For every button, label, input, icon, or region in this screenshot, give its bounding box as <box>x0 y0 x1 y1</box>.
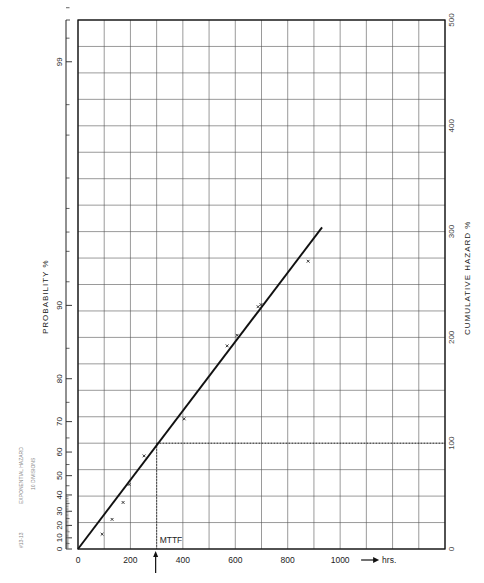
x-tick-label: 400 <box>176 555 190 565</box>
x-tick-label: 200 <box>123 555 137 565</box>
x-tick-label: 600 <box>228 555 242 565</box>
data-point-x-marker <box>236 334 239 337</box>
probability-tick-label: 70 <box>55 417 64 426</box>
x-tick-label: 800 <box>281 555 295 565</box>
data-point-x-marker <box>257 305 260 308</box>
data-point-x-marker <box>183 417 186 420</box>
data-point-x-marker <box>143 454 146 457</box>
probability-tick-label: 90 <box>55 300 64 309</box>
data-point-x-marker <box>101 533 104 536</box>
data-point-x-marker <box>226 344 229 347</box>
mttf-arrowhead <box>153 551 158 557</box>
data-point-x-marker <box>260 303 263 306</box>
hazard-tick-label: 300 <box>447 224 456 238</box>
cumulative-hazard-axis-label: CUMULATIVE HAZARD % <box>463 221 472 335</box>
data-point-x-marker <box>307 260 310 263</box>
x-unit-arrowhead <box>373 557 379 563</box>
grid-lines <box>78 20 445 549</box>
hazard-plot: 010203040506070809099 0100200300400500 0… <box>0 0 484 583</box>
hazard-tick-label: 0 <box>447 546 456 551</box>
x-axis-unit-label: hrs. <box>382 555 396 565</box>
x-tick-label: 1000 <box>331 555 350 565</box>
paper-side-note-2: 10 DIVISIONS <box>30 458 36 490</box>
mttf-annotation: MTTF <box>153 443 445 573</box>
hazard-tick-label: 100 <box>447 436 456 450</box>
probability-axis-label: PROBABILITY % <box>41 259 50 334</box>
data-points <box>101 260 310 536</box>
probability-tick-label: 60 <box>55 447 64 456</box>
probability-tick-label: 40 <box>55 490 64 499</box>
probability-tick-label: 50 <box>55 471 64 480</box>
probability-axis: 010203040506070809099 <box>55 8 72 551</box>
x-tick-label: 0 <box>76 555 81 565</box>
probability-tick-label: 30 <box>55 506 64 515</box>
paper-catalog-number: #13-13 <box>18 532 24 548</box>
fitted-line-path <box>78 227 322 549</box>
probability-tick-label: 20 <box>55 520 64 529</box>
cumulative-hazard-axis: 0100200300400500 <box>447 13 456 551</box>
paper-side-note-1: EXPONENTIAL HAZARD <box>18 447 24 504</box>
hazard-tick-label: 400 <box>447 119 456 133</box>
data-point-x-marker <box>111 518 114 521</box>
probability-tick-label: 99 <box>55 57 64 66</box>
x-axis: 02004006008001000hrs. <box>76 555 397 565</box>
hazard-tick-label: 200 <box>447 330 456 344</box>
probability-tick-label: 0 <box>55 546 64 551</box>
hazard-tick-label: 500 <box>447 13 456 27</box>
data-point-x-marker <box>122 501 125 504</box>
fitted-line <box>78 227 322 549</box>
probability-tick-label: 80 <box>55 374 64 383</box>
probability-tick-label: 10 <box>55 533 64 542</box>
mttf-label: MTTF <box>160 535 183 545</box>
